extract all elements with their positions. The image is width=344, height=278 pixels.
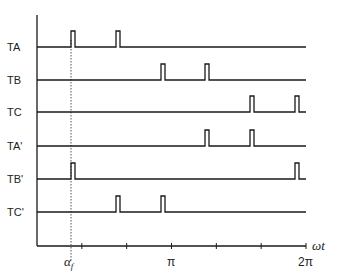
signal-labels: TATBTCTA'TB'TC' xyxy=(7,41,24,218)
signal-trace-tc-prime xyxy=(37,196,306,212)
pi-tick-label: π xyxy=(167,255,175,269)
alpha-f-label: αf xyxy=(64,254,75,271)
signal-trace-tc xyxy=(37,96,306,112)
signal-label: TA' xyxy=(7,140,22,152)
signal-label: TB xyxy=(7,74,21,86)
signal-trace-tb xyxy=(37,64,306,80)
signal-label: TB' xyxy=(7,173,23,185)
signal-trace-tb-prime xyxy=(37,163,306,179)
signal-traces xyxy=(37,31,306,212)
signal-label: TC xyxy=(7,106,22,118)
signal-label: TA xyxy=(7,41,21,53)
two-pi-tick-label: 2π xyxy=(298,255,313,269)
omega-t-axis-label: ωt xyxy=(312,238,325,253)
signal-label: TC' xyxy=(7,206,24,218)
signal-trace-ta-prime xyxy=(37,130,306,146)
pulse-timing-diagram: TATBTCTA'TB'TC' αf π 2π ωt xyxy=(0,0,344,278)
signal-trace-ta xyxy=(37,31,306,47)
axes xyxy=(37,15,306,249)
